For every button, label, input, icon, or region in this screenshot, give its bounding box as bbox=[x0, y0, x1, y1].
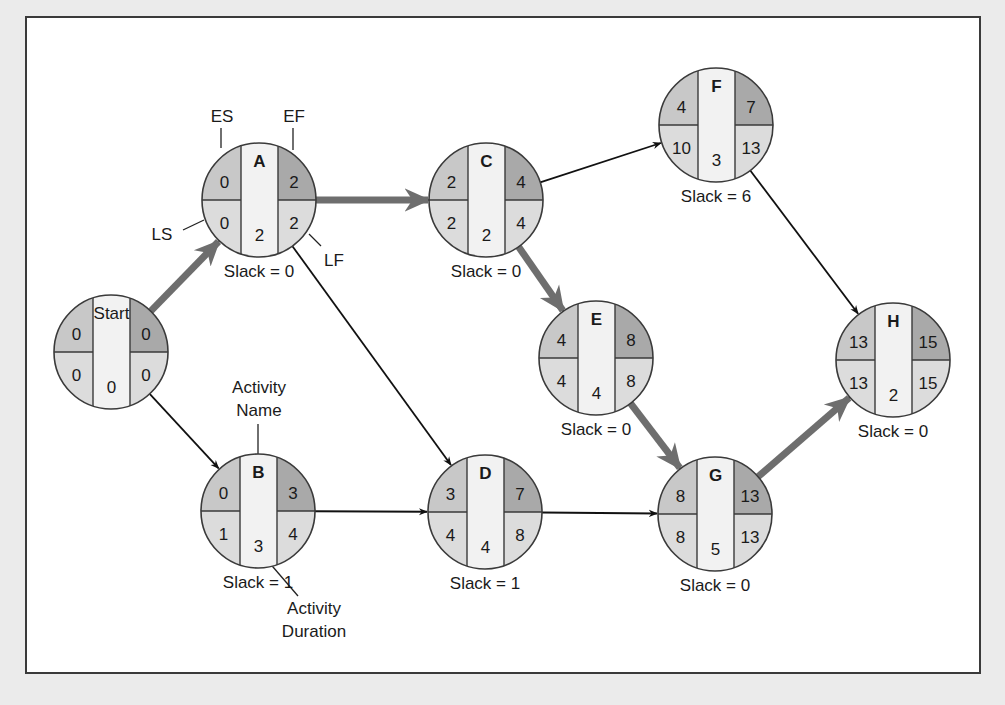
duration-value: 2 bbox=[889, 386, 898, 405]
es-value: 13 bbox=[849, 333, 868, 352]
slack-label: Slack = 0 bbox=[680, 576, 750, 595]
activity-name: F bbox=[711, 77, 721, 96]
es-value: 4 bbox=[557, 331, 566, 350]
slack-label: Slack = 0 bbox=[858, 422, 928, 441]
ef-value: 7 bbox=[515, 485, 524, 504]
es-value: 2 bbox=[447, 173, 456, 192]
es-value: 4 bbox=[677, 98, 686, 117]
activity-name: H bbox=[887, 312, 899, 331]
ls-callout-line bbox=[183, 220, 204, 230]
ef-value: 13 bbox=[741, 487, 760, 506]
duration-value: 2 bbox=[255, 226, 264, 245]
es-value: 0 bbox=[220, 173, 229, 192]
activity-name-callout-label-line2: Name bbox=[236, 401, 281, 420]
node-start: Start00000 bbox=[54, 295, 168, 409]
lf-value: 13 bbox=[742, 139, 761, 158]
ef-value: 8 bbox=[626, 331, 635, 350]
duration-value: 3 bbox=[254, 537, 263, 556]
ef-value: 15 bbox=[919, 333, 938, 352]
ls-callout-label: LS bbox=[152, 225, 173, 244]
duration-value: 2 bbox=[482, 226, 491, 245]
edge-a-to-d bbox=[292, 246, 451, 465]
slack-label: Slack = 0 bbox=[451, 262, 521, 281]
edge-start-to-a-critical bbox=[151, 242, 219, 312]
duration-value: 3 bbox=[712, 151, 721, 170]
ls-value: 10 bbox=[672, 139, 691, 158]
activity-name-callout-label-line1: Activity bbox=[232, 378, 286, 397]
lf-callout-label: LF bbox=[324, 251, 344, 270]
node-d: D37484Slack = 1 bbox=[428, 455, 542, 593]
edge-c-to-f bbox=[540, 143, 661, 182]
duration-value: 5 bbox=[711, 540, 720, 559]
lf-value: 4 bbox=[516, 214, 525, 233]
activity-name: C bbox=[480, 152, 492, 171]
slack-label: Slack = 0 bbox=[224, 262, 294, 281]
es-callout-label: ES bbox=[211, 107, 234, 126]
ls-value: 4 bbox=[557, 372, 566, 391]
ef-value: 0 bbox=[141, 325, 150, 344]
lf-value: 4 bbox=[288, 525, 297, 544]
activity-name: E bbox=[591, 310, 602, 329]
edge-c-to-e-critical bbox=[519, 247, 563, 311]
ls-value: 1 bbox=[219, 525, 228, 544]
edge-f-to-h bbox=[750, 171, 858, 314]
edge-start-to-b bbox=[150, 394, 219, 469]
ls-value: 4 bbox=[446, 526, 455, 545]
ef-value: 7 bbox=[746, 98, 755, 117]
slack-label: Slack = 6 bbox=[681, 187, 751, 206]
ef-value: 2 bbox=[289, 173, 298, 192]
lf-value: 8 bbox=[515, 526, 524, 545]
activity-name: Start bbox=[94, 304, 130, 323]
activity-name: D bbox=[479, 464, 491, 483]
slack-label: Slack = 0 bbox=[561, 420, 631, 439]
node-a: A02022Slack = 0 bbox=[202, 143, 316, 281]
es-value: 0 bbox=[72, 325, 81, 344]
ef-callout-label: EF bbox=[283, 107, 305, 126]
lf-value: 13 bbox=[741, 528, 760, 547]
lf-value: 2 bbox=[289, 214, 298, 233]
node-b: B03143Slack = 1 bbox=[201, 454, 315, 592]
slack-label: Slack = 1 bbox=[223, 573, 293, 592]
es-value: 8 bbox=[676, 487, 685, 506]
node-f: F4710133Slack = 6 bbox=[659, 68, 773, 206]
node-e: E48484Slack = 0 bbox=[539, 301, 653, 439]
lf-value: 0 bbox=[141, 366, 150, 385]
activity-name: A bbox=[253, 152, 265, 171]
ef-value: 4 bbox=[516, 173, 525, 192]
edge-d-to-g bbox=[542, 512, 657, 513]
edge-g-to-h-critical bbox=[758, 398, 849, 477]
ls-value: 0 bbox=[220, 214, 229, 233]
nodes: Start00000A02022Slack = 0B03143Slack = 1… bbox=[54, 68, 950, 595]
duration-value: 4 bbox=[481, 538, 490, 557]
slack-label: Slack = 1 bbox=[450, 574, 520, 593]
duration-value: 0 bbox=[107, 378, 116, 397]
node-h: H131513152Slack = 0 bbox=[836, 303, 950, 441]
lf-value: 8 bbox=[626, 372, 635, 391]
cpm-network-diagram: ESEFLSLFActivityNameActivityDuration Sta… bbox=[0, 0, 1005, 705]
ls-value: 0 bbox=[72, 366, 81, 385]
ef-value: 3 bbox=[288, 484, 297, 503]
lf-value: 15 bbox=[919, 374, 938, 393]
activity-name: B bbox=[252, 463, 264, 482]
lf-callout-line bbox=[309, 234, 321, 246]
edge-e-to-g-critical bbox=[631, 403, 680, 468]
activity-duration-callout-label-line1: Activity bbox=[287, 599, 341, 618]
node-g: G8138135Slack = 0 bbox=[658, 457, 772, 595]
ls-value: 2 bbox=[447, 214, 456, 233]
ls-value: 8 bbox=[676, 528, 685, 547]
es-value: 0 bbox=[219, 484, 228, 503]
duration-value: 4 bbox=[592, 384, 601, 403]
activity-duration-callout-label-line2: Duration bbox=[282, 622, 346, 641]
activity-name: G bbox=[709, 466, 722, 485]
ls-value: 13 bbox=[849, 374, 868, 393]
es-value: 3 bbox=[446, 485, 455, 504]
